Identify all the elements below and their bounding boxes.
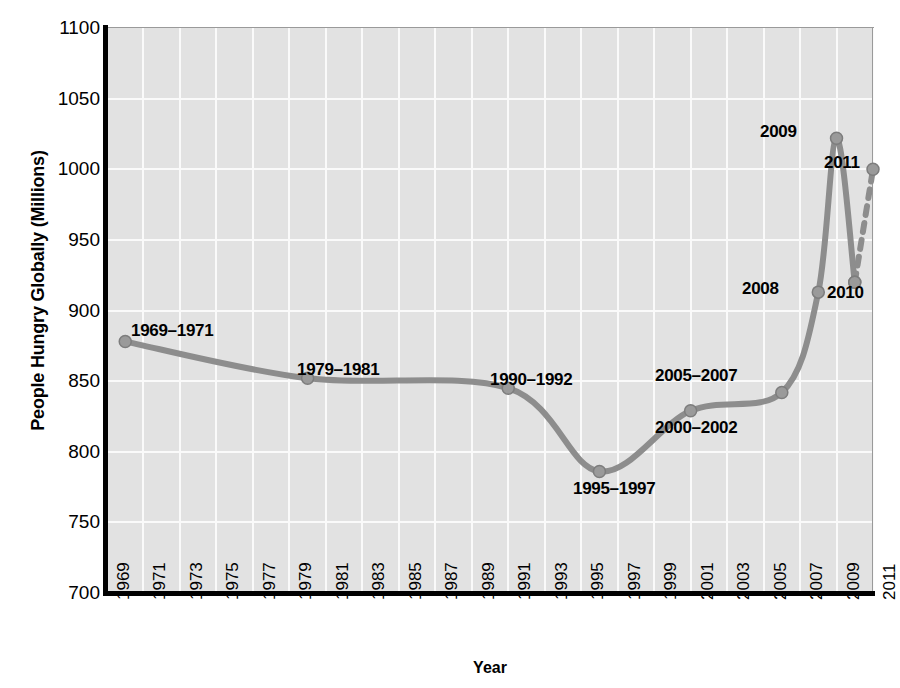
point-annotation: 2010 bbox=[827, 283, 864, 303]
point-annotation: 2000–2002 bbox=[655, 418, 737, 438]
x-tick-label: 1987 bbox=[442, 562, 462, 600]
x-tick-label: 1971 bbox=[150, 562, 170, 600]
x-tick-label: 1979 bbox=[296, 562, 316, 600]
point-annotation: 1990–1992 bbox=[490, 370, 572, 390]
x-tick-label: 2007 bbox=[807, 562, 827, 600]
x-tick-label: 1977 bbox=[260, 562, 280, 600]
x-tick-label: 2009 bbox=[844, 562, 864, 600]
x-tick-label: 1983 bbox=[369, 562, 389, 600]
chart-figure: People Hungry Globally (Millions) 110010… bbox=[0, 0, 900, 688]
point-annotation: 1995–1997 bbox=[573, 479, 655, 499]
point-annotation: 2011 bbox=[824, 153, 860, 173]
point-annotation: 1969–1971 bbox=[131, 321, 213, 341]
x-tick-label: 1981 bbox=[333, 562, 353, 600]
x-tick-label: 1989 bbox=[479, 562, 499, 600]
point-annotation: 2008 bbox=[742, 279, 779, 299]
x-tick-label: 1997 bbox=[625, 562, 645, 600]
x-tick-label: 2003 bbox=[734, 562, 754, 600]
x-tick-label: 1995 bbox=[588, 562, 608, 600]
x-axis-tick-labels: 1969197119731975197719791981198319851987… bbox=[0, 0, 900, 688]
x-tick-label: 1975 bbox=[223, 562, 243, 600]
x-tick-label: 1973 bbox=[187, 562, 207, 600]
x-axis-title: Year bbox=[107, 659, 873, 677]
point-annotation: 2009 bbox=[760, 122, 797, 142]
x-tick-label: 1993 bbox=[552, 562, 572, 600]
point-annotation: 1979–1981 bbox=[297, 360, 379, 380]
x-tick-label: 2001 bbox=[698, 562, 718, 600]
x-tick-label: 1991 bbox=[515, 562, 535, 600]
x-tick-label: 2011 bbox=[880, 563, 900, 600]
point-annotation: 2005–2007 bbox=[655, 366, 737, 386]
x-tick-label: 1999 bbox=[661, 562, 681, 600]
x-tick-label: 2005 bbox=[771, 562, 791, 600]
x-tick-label: 1969 bbox=[114, 562, 134, 600]
x-tick-label: 1985 bbox=[406, 562, 426, 600]
